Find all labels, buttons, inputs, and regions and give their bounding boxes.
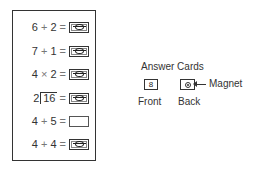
answer-card-front: 8 <box>144 79 158 90</box>
magnet-dot-icon <box>185 82 191 88</box>
arrow-icon <box>194 84 206 85</box>
answer-slot[interactable] <box>69 93 89 104</box>
equation-board: 6 + 2 = 7 + 1 = 4 × 2 = 216 = 4 + 5 = 4 … <box>12 10 96 161</box>
equation-text: 7 + 1 = <box>32 45 66 57</box>
magnet-label: Magnet <box>209 78 242 89</box>
answer-slot[interactable] <box>69 22 89 33</box>
front-label: Front <box>138 96 161 107</box>
equation-row: 6 + 2 = <box>32 20 89 34</box>
equation-row: 7 + 1 = <box>32 44 89 58</box>
division-equation: 216 = <box>33 92 66 104</box>
equation-row: 4 + 5 = <box>32 114 89 128</box>
equation-text: 4 + 5 = <box>32 115 66 127</box>
magnet-icon <box>75 24 84 30</box>
equation-row: 4 × 2 = <box>32 67 89 81</box>
answer-slot[interactable] <box>69 69 89 80</box>
equation-text: 4 × 2 = <box>32 68 66 80</box>
equation-row: 216 = <box>33 91 89 105</box>
equation-text: 4 + 4 = <box>32 138 66 150</box>
empty-answer-slot[interactable] <box>69 116 89 127</box>
long-division-symbol: 16 <box>40 92 56 104</box>
magnet-icon <box>75 141 84 147</box>
answer-cards-title: Answer Cards <box>141 61 204 72</box>
answer-slot[interactable] <box>69 46 89 57</box>
answer-slot[interactable] <box>69 139 89 150</box>
magnet-icon <box>75 71 84 77</box>
back-label: Back <box>178 96 200 107</box>
magnet-icon <box>75 48 84 54</box>
equation-text: 6 + 2 = <box>32 21 66 33</box>
magnet-icon <box>75 95 84 101</box>
equation-row: 4 + 4 = <box>32 137 89 151</box>
